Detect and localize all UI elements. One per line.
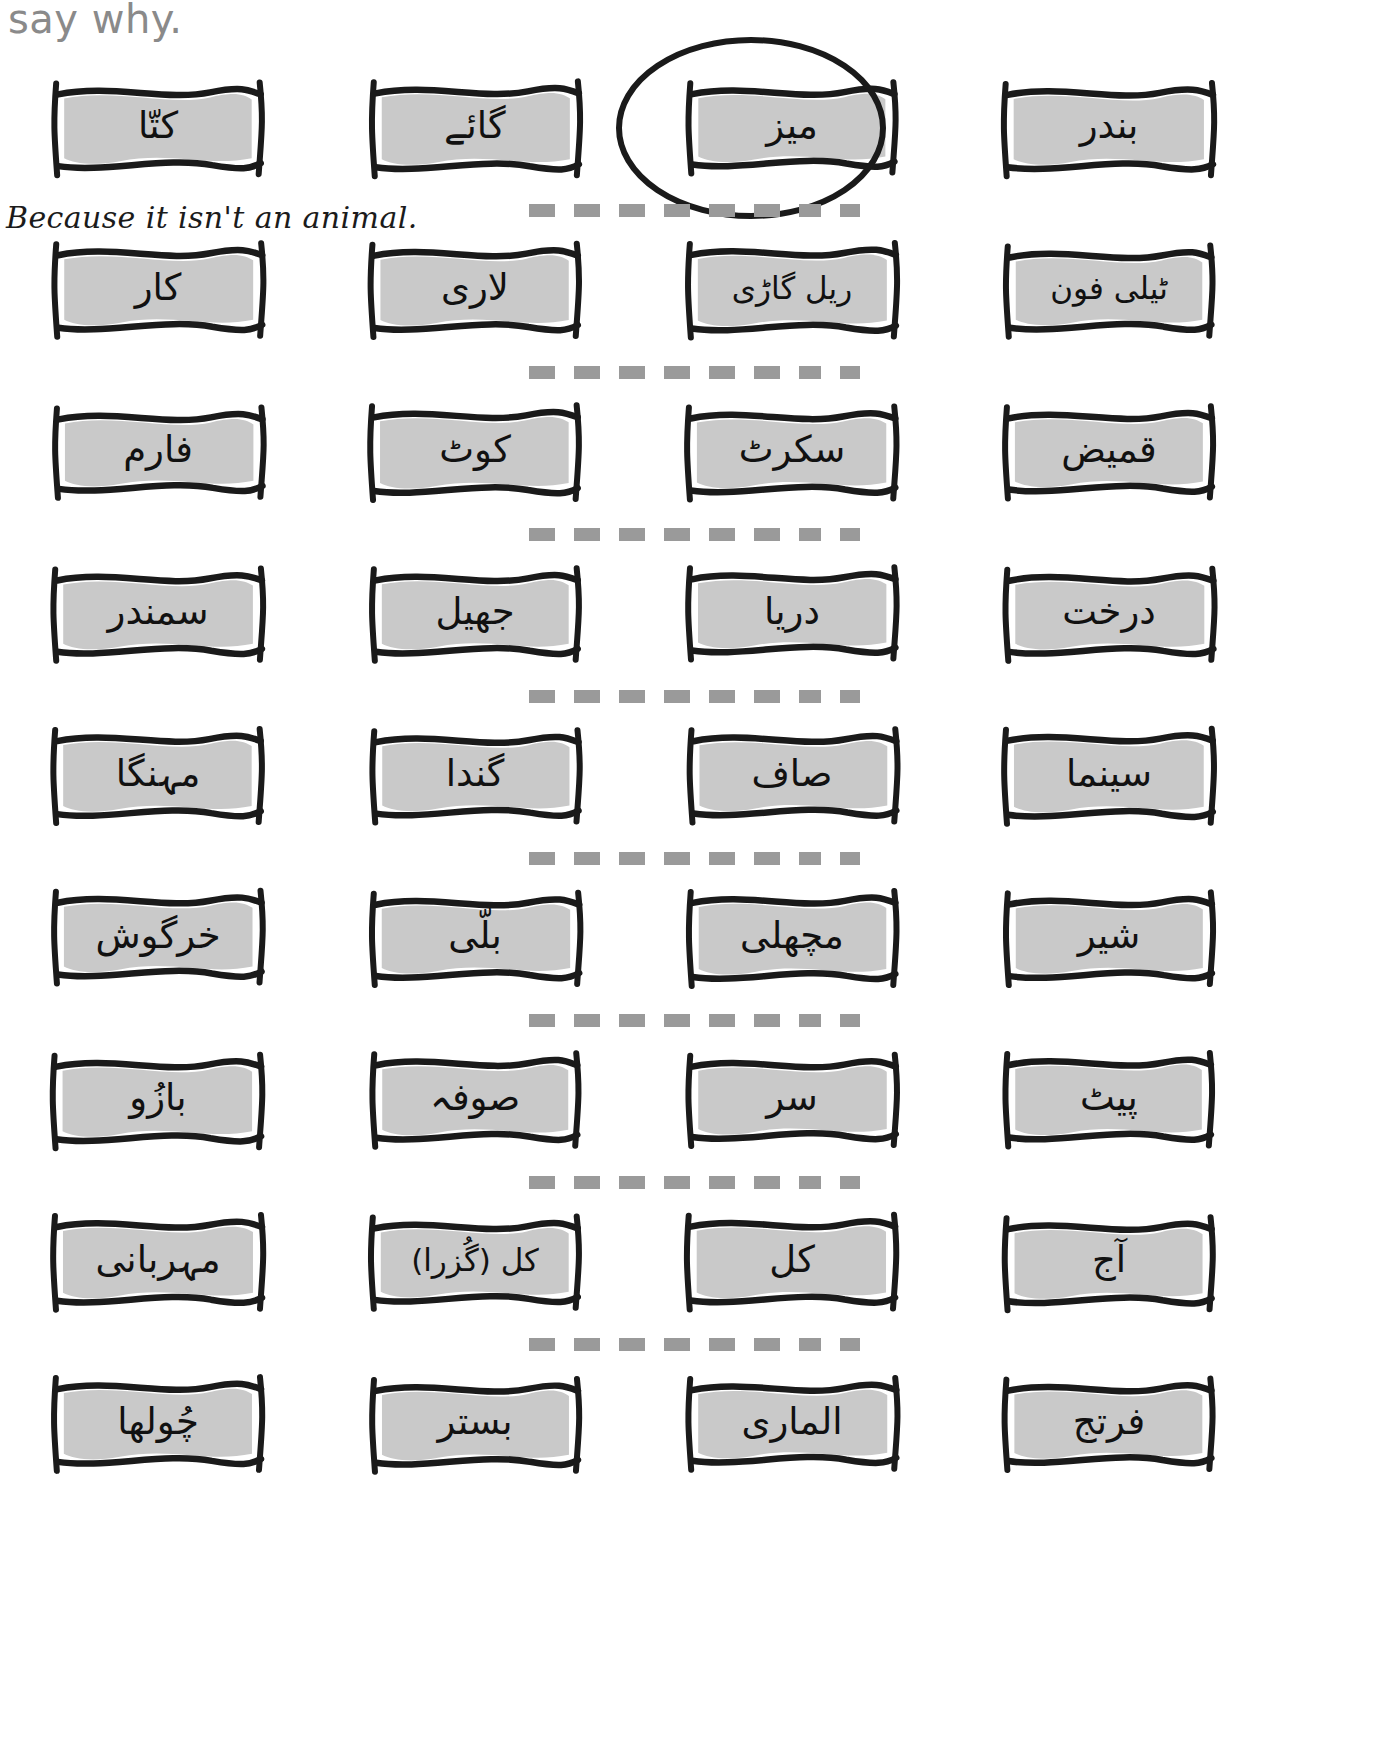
separator-dash [574, 1014, 600, 1027]
card-slot: ریل گاڑی [634, 238, 951, 344]
card-slot: فرتج [951, 1372, 1268, 1478]
word-card[interactable]: فرتج [993, 1374, 1225, 1474]
word-label: دریا [676, 564, 908, 664]
card-slot: سکرٹ [634, 400, 951, 506]
word-label: مچھلی [676, 888, 908, 988]
word-card[interactable]: بلّی [359, 888, 591, 988]
card-slot: آج [951, 1210, 1268, 1316]
separator-dash [574, 528, 600, 541]
card-slot: لاری [317, 238, 634, 344]
separator-dash [840, 1014, 860, 1027]
separator-dash [664, 528, 690, 541]
word-label: ٹیلی فون [993, 240, 1225, 340]
word-label: گائے [359, 78, 591, 178]
separator-dash [840, 690, 860, 703]
card-slot: بازُو [0, 1048, 317, 1154]
separator-dash [529, 1176, 555, 1189]
word-card[interactable]: مہربانی [42, 1212, 274, 1312]
separator-dash [709, 204, 735, 217]
word-label: کار [42, 240, 274, 340]
separator-dash [709, 528, 735, 541]
separator-dash [799, 528, 821, 541]
word-label: گندا [359, 726, 591, 826]
word-card[interactable]: بندر [993, 78, 1225, 178]
separator-dash [799, 690, 821, 703]
word-card[interactable]: گندا [359, 726, 591, 826]
card-slot: سر [634, 1048, 951, 1154]
card-slot: ٹیلی فون [951, 238, 1268, 344]
word-card[interactable]: صوفہ [359, 1050, 591, 1150]
word-card[interactable]: الماری [676, 1374, 908, 1474]
word-card[interactable]: سکرٹ [676, 402, 908, 502]
word-label: صوفہ [359, 1050, 591, 1150]
word-row: فارم کوٹ [0, 400, 1388, 506]
card-slot: چُولھا [0, 1372, 317, 1478]
word-card[interactable]: سمندر [42, 564, 274, 664]
word-card[interactable]: میز [676, 78, 908, 178]
card-slot: بلّی [317, 886, 634, 992]
separator-dash [574, 204, 600, 217]
separator-dash [840, 528, 860, 541]
word-card[interactable]: مہنگا [42, 726, 274, 826]
word-label: جھیل [359, 564, 591, 664]
word-card[interactable]: پیٹ [993, 1050, 1225, 1150]
word-row: بازُو صوفہ [0, 1048, 1388, 1154]
word-card[interactable]: درخت [993, 564, 1225, 664]
word-card[interactable]: کوٹ [359, 402, 591, 502]
word-card[interactable]: بازُو [42, 1050, 274, 1150]
separator-dash [840, 366, 860, 379]
word-label: سینما [993, 726, 1225, 826]
separator-dash [754, 366, 780, 379]
word-card[interactable]: سر [676, 1050, 908, 1150]
card-slot: کوٹ [317, 400, 634, 506]
separator-dash [529, 1014, 555, 1027]
separator-dash [619, 1176, 645, 1189]
word-label: کل (گُزرا) [359, 1212, 591, 1312]
separator-dash [709, 1176, 735, 1189]
word-card[interactable]: ٹیلی فون [993, 240, 1225, 340]
word-card[interactable]: بستر [359, 1374, 591, 1474]
row-separator [0, 1316, 1388, 1372]
separator-dash [709, 690, 735, 703]
card-slot: درخت [951, 562, 1268, 668]
word-card[interactable]: دریا [676, 564, 908, 664]
word-card[interactable]: کار [42, 240, 274, 340]
word-card[interactable]: کتّا [42, 78, 274, 178]
word-card[interactable]: جھیل [359, 564, 591, 664]
word-card[interactable]: خرگوش [42, 888, 274, 988]
word-label: بازُو [42, 1050, 274, 1150]
word-card[interactable]: مچھلی [676, 888, 908, 988]
card-slot: پیٹ [951, 1048, 1268, 1154]
row-separator [0, 992, 1388, 1048]
word-label: آج [993, 1212, 1225, 1312]
word-label: سر [676, 1050, 908, 1150]
word-card[interactable]: کل (گُزرا) [359, 1212, 591, 1312]
separator-dash [799, 852, 821, 865]
separator-dash [799, 1338, 821, 1351]
word-card[interactable]: آج [993, 1212, 1225, 1312]
word-card[interactable]: کل [676, 1212, 908, 1312]
card-slot: سمندر [0, 562, 317, 668]
separator-dash [709, 1014, 735, 1027]
word-card[interactable]: لاری [359, 240, 591, 340]
card-slot: جھیل [317, 562, 634, 668]
word-card[interactable]: ریل گاڑی [676, 240, 908, 340]
word-label: شیر [993, 888, 1225, 988]
separator-dash [664, 366, 690, 379]
word-card[interactable]: سینما [993, 726, 1225, 826]
row-separator [0, 668, 1388, 724]
word-row: کار لاری [0, 238, 1388, 344]
separator-dash [754, 690, 780, 703]
word-card[interactable]: فارم [42, 402, 274, 502]
row-separator [0, 1154, 1388, 1210]
word-card[interactable]: چُولھا [42, 1374, 274, 1474]
card-slot: کتّا [0, 76, 317, 182]
card-slot: صاف [634, 724, 951, 830]
word-card[interactable]: شیر [993, 888, 1225, 988]
card-slot: مچھلی [634, 886, 951, 992]
word-card[interactable]: قمیض [993, 402, 1225, 502]
word-card[interactable]: صاف [676, 726, 908, 826]
separator-dash [709, 1338, 735, 1351]
word-card[interactable]: گائے [359, 78, 591, 178]
word-label: بلّی [359, 888, 591, 988]
